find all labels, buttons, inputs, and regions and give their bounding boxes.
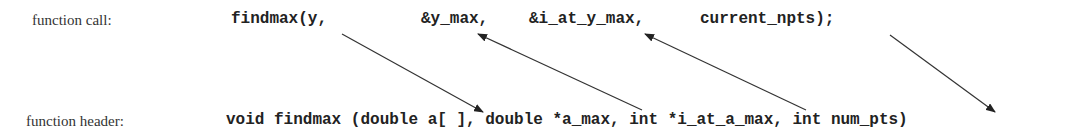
arrow-i-at-a-max-to-i-at-y-max xyxy=(645,34,806,110)
arrow-a-max-to-y-max xyxy=(478,34,642,110)
arrow-y-to-a xyxy=(342,34,483,112)
arrow-current-npts-to-num-pts xyxy=(890,35,995,112)
arrows-layer xyxy=(0,0,1085,139)
